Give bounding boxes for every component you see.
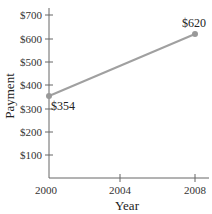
payment-line-chart: $100 $200 $300 $400 $500 $600 $700 2000 … xyxy=(0,0,212,214)
x-tick-label-2004: 2004 xyxy=(109,184,132,196)
data-label-2008: $620 xyxy=(182,16,206,30)
y-tick-label-100: $100 xyxy=(20,149,43,161)
y-tick-label-300: $300 xyxy=(20,103,43,115)
x-tick-labels: 2000 2004 2008 xyxy=(35,184,207,196)
payment-trend-line xyxy=(49,34,195,96)
y-tick-label-600: $600 xyxy=(20,33,43,45)
x-tick-label-2008: 2008 xyxy=(184,184,207,196)
data-label-2000: $354 xyxy=(51,99,75,113)
x-tick-label-2000: 2000 xyxy=(35,184,58,196)
y-axis-title: Payment xyxy=(2,73,17,119)
y-tick-label-500: $500 xyxy=(20,56,43,68)
data-point-2008 xyxy=(192,31,198,37)
y-tick-label-400: $400 xyxy=(20,79,43,91)
y-tick-label-200: $200 xyxy=(20,126,43,138)
y-tick-labels: $100 $200 $300 $400 $500 $600 $700 xyxy=(20,9,43,161)
x-axis-title: Year xyxy=(115,198,140,213)
y-tick-label-700: $700 xyxy=(20,9,43,21)
